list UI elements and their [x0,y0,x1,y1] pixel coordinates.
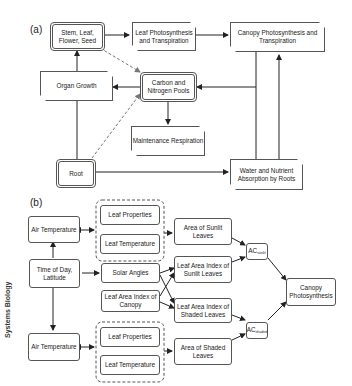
node-canopy-photosynthesis: Canopy Photosynthesis [286,278,336,306]
node-ac-sunlit: ACsunlit [246,243,268,260]
node-carbon-nitrogen-pools: Carbon and Nitrogen Pools [140,72,197,102]
node-solar-angles: Solar Angles [101,263,160,283]
ac-shaded-label: ACshaded [247,326,268,336]
node-root: Root [56,159,96,188]
node-water-nutrient-absorption: Water and Nutrient Absorption by Roots [230,159,303,190]
node-leaf-temperature-bottom: Leaf Temperature [100,355,160,375]
node-air-temperature-top: Air Temperature [28,216,80,243]
side-label-systems-biology: Systems Biology [4,282,11,338]
node-air-temperature-bottom: Air Temperature [28,333,80,361]
node-leaf-properties-top: Leaf Properties [100,205,160,225]
node-lai-canopy: Leaf Area Index of Canopy [101,290,160,312]
node-time-of-day-latitude: Time of Day, Latitude [29,259,80,288]
node-lai-sunlit-leaves: Leaf Area Index of Sunlit Leaves [174,256,232,283]
node-ac-shaded: ACshaded [246,322,268,339]
panel-a-label: (a) [30,24,42,35]
node-lai-shaded-leaves: Leaf Area Index of Shaded Leaves [174,298,232,323]
node-area-sunlit-leaves: Area of Sunlit Leaves [174,218,232,245]
panel-b-label: (b) [30,197,42,208]
connector-layer [0,0,352,386]
node-leaf-photosynthesis: Leaf Photosynthesis and Transpiration [132,22,196,51]
node-canopy-photosynthesis-transpiration: Canopy Photosynthesis and Transpiration [230,22,325,52]
ac-sunlit-label: ACsunlit [248,247,265,257]
node-leaf-properties-bottom: Leaf Properties [100,327,160,347]
node-leaf-temperature-top: Leaf Temperature [100,234,160,254]
node-organ-growth: Organ Growth [40,71,113,101]
node-maintenance-respiration: Maintenance Respiration [131,126,205,156]
node-area-shaded-leaves: Area of Shaded Leaves [174,338,232,365]
node-stem-leaf-flower-seed: Stem, Leaf, Flower, Seed [50,22,105,51]
